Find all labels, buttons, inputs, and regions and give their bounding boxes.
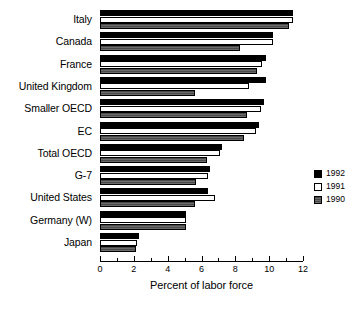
bar-1990 (100, 157, 207, 163)
x-axis-line (100, 261, 303, 262)
bar-group (100, 99, 303, 119)
bar-1991 (100, 83, 249, 89)
bar-group (100, 144, 303, 164)
bar-1992 (100, 55, 266, 61)
x-tick-label: 4 (158, 264, 178, 274)
x-tick (134, 256, 135, 261)
bar-1990 (100, 112, 247, 118)
bar-1992 (100, 166, 210, 172)
category-label: Germany (W) (0, 215, 92, 226)
bar-group (100, 77, 303, 97)
bar-1991 (100, 17, 293, 23)
category-label: Canada (0, 36, 92, 47)
x-tick-label: 12 (293, 264, 313, 274)
category-label: Italy (0, 14, 92, 25)
bar-group (100, 211, 303, 231)
category-label: United Kingdom (0, 81, 92, 92)
x-tick-label: 2 (124, 264, 144, 274)
x-tick-minor (286, 258, 287, 261)
bar-1990 (100, 224, 186, 230)
bar-group (100, 188, 303, 208)
bar-group (100, 233, 303, 253)
category-label: Total OECD (0, 148, 92, 159)
x-tick-label: 6 (192, 264, 212, 274)
bar-1991 (100, 106, 261, 112)
bar-1991 (100, 61, 262, 67)
bar-group (100, 55, 303, 75)
x-tick (269, 256, 270, 261)
bar-1992 (100, 122, 259, 128)
bar-1991 (100, 173, 208, 179)
x-tick-minor (117, 258, 118, 261)
x-tick-minor (252, 258, 253, 261)
bar-1992 (100, 211, 186, 217)
bar-1992 (100, 99, 264, 105)
x-tick-minor (218, 258, 219, 261)
bar-1990 (100, 90, 195, 96)
plot-area (100, 8, 303, 253)
x-tick-label: 10 (259, 264, 279, 274)
bar-1990 (100, 45, 240, 51)
bar-1992 (100, 77, 266, 83)
x-axis-title: Percent of labor force (100, 279, 303, 291)
bar-1991 (100, 217, 186, 223)
category-label: EC (0, 126, 92, 137)
bar-1990 (100, 68, 257, 74)
bar-1990 (100, 201, 195, 207)
category-axis-labels: ItalyCanadaFranceUnited KingdomSmaller O… (0, 8, 96, 253)
bar-group (100, 32, 303, 52)
bar-1992 (100, 233, 139, 239)
x-tick (168, 256, 169, 261)
bar-1992 (100, 10, 293, 16)
x-tick (202, 256, 203, 261)
legend-label: 1991 (326, 182, 345, 191)
bar-1991 (100, 128, 256, 134)
x-tick (235, 256, 236, 261)
legend-label: 1990 (326, 195, 345, 204)
category-label: France (0, 59, 92, 70)
legend-item[interactable]: 1990 (314, 194, 356, 205)
category-label: Japan (0, 237, 92, 248)
x-tick-minor (151, 258, 152, 261)
legend-swatch-icon (314, 170, 322, 178)
x-tick-label: 0 (90, 264, 110, 274)
bar-1991 (100, 150, 220, 156)
x-tick-minor (185, 258, 186, 261)
bar-1991 (100, 39, 273, 45)
category-label: Smaller OECD (0, 103, 92, 114)
bar-chart: ItalyCanadaFranceUnited KingdomSmaller O… (0, 0, 357, 310)
bar-1990 (100, 246, 136, 252)
bar-group (100, 122, 303, 142)
bar-1991 (100, 195, 215, 201)
legend-swatch-icon (314, 183, 322, 191)
bar-group (100, 166, 303, 186)
legend-item[interactable]: 1991 (314, 181, 356, 192)
legend-item[interactable]: 1992 (314, 168, 356, 179)
category-label: G-7 (0, 170, 92, 181)
legend-label: 1992 (326, 169, 345, 178)
chart-legend: 199219911990 (314, 168, 356, 207)
bar-1992 (100, 188, 208, 194)
bar-1990 (100, 23, 289, 29)
category-label: United States (0, 192, 92, 203)
bar-1990 (100, 135, 244, 141)
x-tick-label: 8 (225, 264, 245, 274)
bar-1990 (100, 179, 196, 185)
legend-swatch-icon (314, 196, 322, 204)
bar-1992 (100, 144, 222, 150)
x-tick (303, 256, 304, 261)
bar-1992 (100, 32, 273, 38)
bar-1991 (100, 240, 137, 246)
bar-group (100, 10, 303, 30)
x-tick (100, 256, 101, 261)
